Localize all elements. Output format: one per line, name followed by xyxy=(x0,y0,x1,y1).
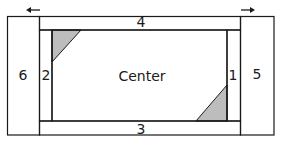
label-5: 5 xyxy=(253,67,262,81)
label-3: 3 xyxy=(137,122,146,136)
arrow-right-icon xyxy=(241,7,255,13)
quilt-block-diagram: 6 5 4 3 2 1 Center xyxy=(0,0,282,145)
label-6: 6 xyxy=(19,68,28,82)
label-1: 1 xyxy=(229,68,238,82)
label-center: Center xyxy=(118,69,165,83)
triangle-top-left xyxy=(52,30,81,62)
label-2: 2 xyxy=(42,68,51,82)
triangle-bottom-right xyxy=(196,85,227,121)
arrow-left-icon xyxy=(26,7,40,13)
label-4: 4 xyxy=(137,15,146,29)
